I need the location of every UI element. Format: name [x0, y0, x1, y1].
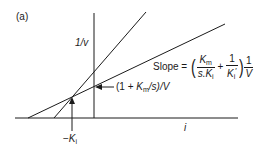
- term2-fraction: 1Ki′: [226, 54, 238, 80]
- plus-sign: +: [217, 61, 223, 72]
- neg-ki-label: −Ki: [63, 134, 77, 145]
- term2-num: 1: [226, 54, 238, 66]
- intercept-open: (1 +: [116, 81, 136, 92]
- factor-den: V: [244, 68, 253, 79]
- ki-sub: i: [212, 73, 214, 80]
- panel-label: (a): [16, 12, 28, 22]
- right-paren: ): [239, 57, 244, 77]
- factor-fraction: 1V: [244, 56, 253, 79]
- intercept-label: (1 + Km/s)/V: [116, 82, 169, 93]
- diagram-canvas: [0, 0, 262, 160]
- ki-prime-var: K: [227, 68, 234, 79]
- term1-fraction: Kms.Ki: [197, 55, 215, 80]
- neg-ki-sub: i: [76, 138, 78, 145]
- factor-num: 1: [244, 56, 253, 68]
- y-axis-label: 1/v: [75, 38, 88, 48]
- x-axis-label: i: [184, 123, 186, 133]
- intercept-rest: /s)/V: [149, 81, 170, 92]
- steep-line: [54, 12, 146, 118]
- prime-mark: ′: [235, 66, 237, 75]
- intercept-km-var: K: [136, 81, 143, 92]
- slope-prefix: Slope =: [153, 61, 187, 72]
- neg-ki-var: K: [69, 133, 76, 144]
- slope-formula: Slope = (Kms.Ki + 1Ki′)1V: [153, 54, 253, 80]
- left-paren: (: [191, 57, 196, 77]
- km-sub: m: [206, 59, 212, 66]
